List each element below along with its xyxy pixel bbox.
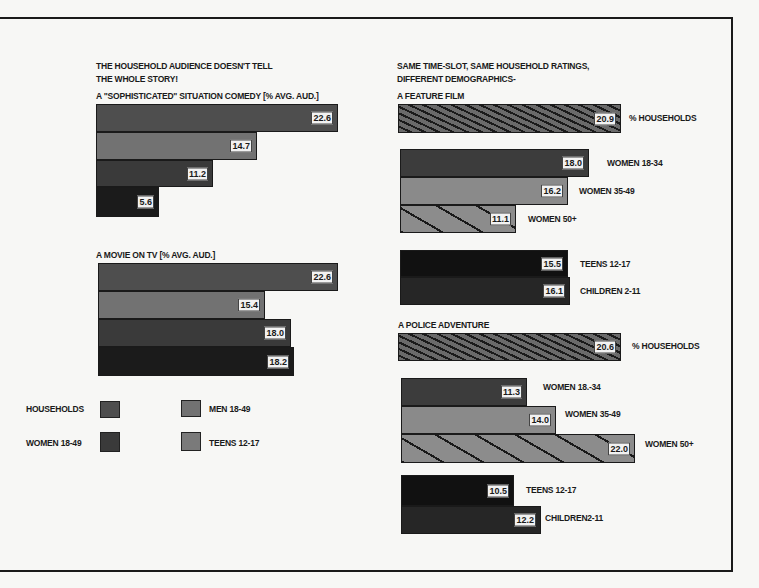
police-bar-children-2-11: 12.2 <box>401 506 541 534</box>
film-label-women-18-34: WOMEN 18-34 <box>607 159 662 168</box>
bar-value: 15.5 <box>541 257 563 270</box>
legend-swatch-men-18-49 <box>181 400 201 417</box>
bar-value: 16.1 <box>543 285 565 298</box>
film-chart-title: A FEATURE FILM <box>397 92 464 101</box>
bar-value: 20.6 <box>594 341 616 354</box>
legend-label-households: HOUSEHOLDS <box>26 405 84 414</box>
left-heading: THE HOUSEHOLD AUDIENCE DOESN'T TELL THE … <box>96 60 273 86</box>
bar-value: 16.2 <box>541 185 563 198</box>
police-label-households: % HOUSEHOLDS <box>632 342 700 351</box>
sitcom-bar-households: 22.6 <box>96 104 338 132</box>
bar-value: 11.3 <box>501 386 522 399</box>
movie-bar-households: 22.6 <box>98 263 338 291</box>
bar-value: 22.6 <box>311 112 333 125</box>
frame-right-rule <box>731 17 733 572</box>
legend-label-teens-12-17: TEENS 12-17 <box>209 439 259 448</box>
police-bar-households: 20.6 <box>398 333 621 361</box>
frame-bottom-rule <box>0 570 733 572</box>
right-heading-line2: DIFFERENT DEMOGRAPHICS- <box>397 73 589 86</box>
sitcom-bar-teens-12-17: 5.6 <box>96 187 159 217</box>
police-label-children-2-11: CHILDREN2-11 <box>545 514 603 523</box>
police-label-teens-12-17: TEENS 12-17 <box>526 486 576 495</box>
bar-value: 18.0 <box>562 157 584 170</box>
film-bar-children-2-11: 16.1 <box>400 277 570 305</box>
film-bar-women-35-49: 16.2 <box>400 177 568 205</box>
legend-swatch-teens-12-17 <box>181 432 201 451</box>
film-bar-households: 20.9 <box>398 104 621 133</box>
film-bar-women-50-plus: 11.1 <box>400 205 516 233</box>
sitcom-bar-women-18-49: 11.2 <box>96 160 213 187</box>
police-bar-women-18-34: 11.3 <box>401 378 527 406</box>
left-heading-line1: THE HOUSEHOLD AUDIENCE DOESN'T TELL <box>96 60 273 73</box>
movie-bar-women-18-49: 18.0 <box>98 319 291 347</box>
film-label-women-35-49: WOMEN 35-49 <box>579 187 634 196</box>
legend-label-women-18-49: WOMEN 18-49 <box>26 439 81 448</box>
bar-value: 11.2 <box>187 167 208 180</box>
movie-bar-men-18-49: 15.4 <box>98 291 265 319</box>
film-label-children-2-11: CHILDREN 2-11 <box>580 287 640 296</box>
film-bar-teens-12-17: 15.5 <box>400 250 568 277</box>
bar-value: 14.7 <box>230 140 252 153</box>
bar-value: 5.6 <box>137 196 154 209</box>
bar-value: 14.0 <box>529 414 551 427</box>
police-chart-title: A POLICE ADVENTURE <box>398 321 489 330</box>
film-bar-women-18-34: 18.0 <box>400 149 589 177</box>
movie-chart-title: A MOVIE ON TV [% AVG. AUD.] <box>96 251 215 260</box>
bar-value: 22.0 <box>608 442 630 455</box>
right-heading-line1: SAME TIME-SLOT, SAME HOUSEHOLD RATINGS, <box>397 60 589 73</box>
bar-value: 22.6 <box>311 271 333 284</box>
bar-value: 18.2 <box>267 355 289 368</box>
police-bar-women-35-49: 14.0 <box>401 406 556 434</box>
bar-value: 18.0 <box>264 327 286 340</box>
police-bar-teens-12-17: 10.5 <box>401 475 514 506</box>
legend-swatch-women-18-49 <box>100 432 120 452</box>
police-bar-women-50-plus: 22.0 <box>401 434 635 463</box>
bar-value: 15.4 <box>238 299 260 312</box>
police-label-women-35-49: WOMEN 35-49 <box>565 410 620 419</box>
legend-label-men-18-49: MEN 18-49 <box>209 405 250 414</box>
sitcom-bar-men-18-49: 14.7 <box>96 132 257 160</box>
film-label-women-50-plus: WOMEN 50+ <box>528 215 577 224</box>
frame-top-rule <box>0 17 733 19</box>
bar-value: 11.1 <box>490 213 511 226</box>
bar-value: 10.5 <box>487 484 509 497</box>
police-label-women-50-plus: WOMEN 50+ <box>645 440 694 449</box>
police-label-women-18-34: WOMEN 18.-34 <box>543 383 601 392</box>
bar-value: 20.9 <box>594 112 616 125</box>
legend-swatch-households <box>100 401 120 418</box>
right-heading: SAME TIME-SLOT, SAME HOUSEHOLD RATINGS, … <box>397 60 589 86</box>
film-label-teens-12-17: TEENS 12-17 <box>580 260 630 269</box>
film-label-households: % HOUSEHOLDS <box>629 114 697 123</box>
left-heading-line2: THE WHOLE STORY! <box>96 73 273 86</box>
movie-bar-teens-12-17: 18.2 <box>98 347 294 376</box>
bar-value: 12.2 <box>514 514 536 527</box>
sitcom-chart-title: A "SOPHISTICATED" SITUATION COMEDY [% AV… <box>96 92 319 101</box>
